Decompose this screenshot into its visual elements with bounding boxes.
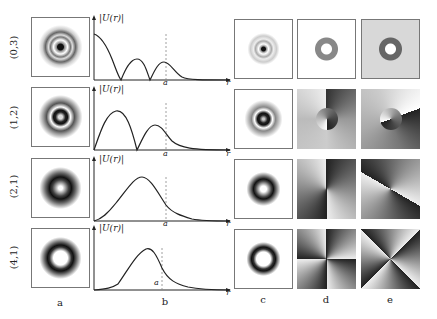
column-label-a: a (50, 297, 70, 308)
plot-b-row1-profile: |U(r)| a r (92, 14, 234, 80)
plot-b-row4-profile: |U(r)| a r (92, 224, 234, 290)
column-label-d: d (316, 294, 336, 305)
row-label-0-3: (0,3) (8, 33, 19, 63)
plot-b-row2-profile: |U(r)| a r (92, 85, 234, 151)
row-label-2-1: (2,1) (8, 172, 19, 202)
a-marker-label: a (154, 278, 159, 287)
panel-c-row4-amplitude (234, 229, 293, 289)
column-label-e: e (380, 294, 400, 305)
panel-e-row2-phase (361, 89, 420, 149)
panel-d-row2-phase (297, 89, 356, 149)
panel-d-row4-phase (297, 229, 356, 289)
y-axis-label: |U(r)| (99, 84, 124, 94)
r-axis-label: r (226, 288, 230, 297)
panel-a-row2-intensity (31, 87, 90, 147)
phase-disk (316, 108, 338, 130)
panel-d-row3-phase (297, 159, 356, 219)
y-axis-label: |U(r)| (99, 13, 124, 23)
plot-b-row3-profile: |U(r)| a r (92, 155, 234, 221)
panel-a-row4-intensity (31, 228, 90, 288)
column-label-b: b (155, 296, 175, 307)
column-label-c: c (253, 294, 273, 305)
y-axis-label: |U(r)| (99, 223, 124, 233)
panel-e-row4-phase (361, 229, 420, 289)
panel-c-row2-amplitude (234, 89, 293, 149)
row-label-1-2: (1,2) (8, 103, 19, 133)
panel-e-row1-phase (361, 19, 420, 79)
panel-e-row3-phase (361, 159, 420, 219)
panel-c-row1-amplitude (234, 19, 293, 79)
phase-disk (380, 108, 402, 130)
y-axis-label: |U(r)| (99, 154, 124, 164)
panel-c-row3-amplitude (234, 159, 293, 219)
panel-a-row3-intensity (31, 158, 90, 218)
panel-a-row1-intensity (31, 17, 90, 77)
row-label-4-1: (4,1) (8, 243, 19, 273)
panel-d-row1-phase (297, 19, 356, 79)
